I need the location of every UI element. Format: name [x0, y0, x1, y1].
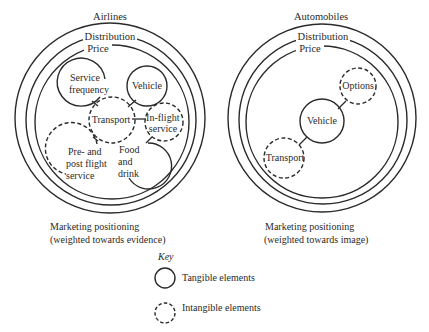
legend-title: Key	[157, 251, 174, 262]
automobiles-caption: Marketing positioning (weighted towards …	[264, 221, 368, 246]
options-label: Options	[342, 80, 374, 91]
distribution-label: Distribution	[298, 31, 350, 42]
diagram-canvas: Airlines Distribution Price Service freq…	[0, 0, 429, 332]
transport-label: Transport	[92, 114, 131, 125]
tangible-legend-label: Tangible elements	[182, 272, 255, 283]
in-flight-service-label: In-flight service	[146, 112, 182, 134]
vehicle-label: Vehicle	[307, 115, 338, 126]
pre-post-flight-label: Pre- and post flight service	[66, 146, 109, 181]
connector	[146, 137, 152, 143]
airlines-diagram: Airlines Distribution Price Service freq…	[15, 11, 205, 246]
tangible-legend-icon	[155, 268, 175, 288]
distribution-label: Distribution	[85, 31, 137, 42]
automobiles-diagram: Automobiles Distribution Price Options V…	[228, 11, 416, 246]
airlines-caption: Marketing positioning (weighted towards …	[50, 221, 166, 246]
intangible-legend-label: Intangible elements	[182, 302, 261, 313]
airlines-title: Airlines	[93, 11, 127, 22]
price-label: Price	[87, 43, 109, 54]
food-drink-label: Food and drink	[118, 144, 142, 179]
connector	[299, 137, 307, 145]
intangible-legend-icon	[155, 303, 175, 323]
service-frequency-label: Service frequency	[69, 72, 109, 95]
legend: Key Tangible elements Intangible element…	[155, 251, 261, 323]
automobiles-title: Automobiles	[294, 11, 348, 22]
vehicle-label: Vehicle	[132, 80, 163, 91]
price-label: Price	[299, 43, 321, 54]
transport-label: Transport	[266, 152, 305, 163]
